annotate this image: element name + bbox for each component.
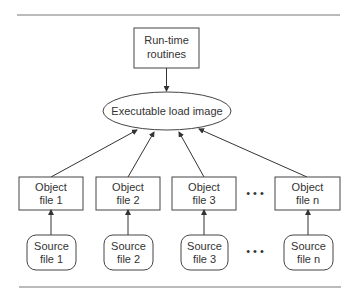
source-2-label-1: Source: [111, 240, 146, 252]
object-n-label-2: file n: [296, 194, 319, 206]
source-2-label-2: file 2: [117, 253, 140, 265]
object-file-n: Object file n: [275, 177, 340, 210]
executable-load-image-node: Executable load image: [103, 92, 231, 130]
runtime-label-1: Run-time: [144, 34, 189, 46]
object-2-label-2: file 2: [116, 194, 139, 206]
object-3-label-2: file 3: [192, 194, 215, 206]
object-file-3: Object file 3: [172, 177, 236, 210]
runtime-label-2: routines: [147, 48, 187, 60]
source-file-1: Source file 1: [27, 235, 76, 270]
object-1-label-1: Object: [35, 181, 67, 193]
source-1-label-1: Source: [34, 240, 69, 252]
runtime-routines-box: Run-time routines: [134, 28, 199, 68]
object-3-label-1: Object: [188, 181, 220, 193]
source-3-label-2: file 3: [193, 253, 216, 265]
object-n-label-1: Object: [292, 181, 324, 193]
object-2-label-1: Object: [112, 181, 144, 193]
source-ellipsis: • • •: [246, 245, 264, 257]
object-file-1: Object file 1: [19, 177, 83, 210]
source-file-3: Source file 3: [181, 235, 228, 270]
object-file-2: Object file 2: [96, 177, 160, 210]
compilation-diagram: Run-time routines Executable load image …: [0, 0, 358, 296]
arrow-objn-to-exec: [199, 129, 307, 177]
object-1-label-2: file 1: [39, 194, 62, 206]
arrow-obj3-to-exec: [179, 132, 204, 177]
source-file-n: Source file n: [284, 235, 333, 270]
object-ellipsis: • • •: [246, 187, 264, 199]
executable-label: Executable load image: [111, 105, 222, 117]
source-1-label-2: file 1: [40, 253, 63, 265]
arrow-obj2-to-exec: [128, 132, 154, 177]
source-n-label-2: file n: [297, 253, 320, 265]
source-n-label-1: Source: [291, 240, 326, 252]
arrow-obj1-to-exec: [51, 130, 137, 177]
source-file-2: Source file 2: [104, 235, 153, 270]
source-3-label-1: Source: [187, 240, 222, 252]
